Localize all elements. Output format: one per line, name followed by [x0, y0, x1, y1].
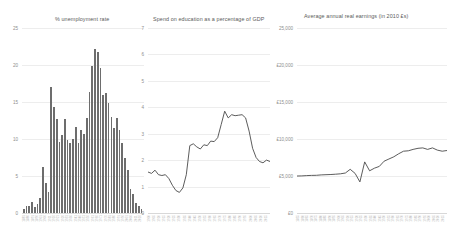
y-axis-tick-label: 15 — [2, 100, 18, 105]
bar — [48, 192, 50, 213]
bar — [119, 130, 121, 213]
x-axis-tick-label: 2015 — [442, 215, 447, 222]
x-axis-labels: 1855186018651870187518801885189018951900… — [297, 215, 447, 222]
bar — [26, 206, 28, 213]
bar — [69, 143, 71, 213]
line-path — [148, 111, 270, 192]
bar — [102, 95, 104, 213]
line-path — [297, 148, 447, 182]
bar — [83, 134, 85, 213]
bar — [100, 68, 102, 213]
bar — [111, 117, 113, 213]
bar — [113, 128, 115, 213]
bar — [80, 130, 82, 213]
y-axis-tick-label: 20 — [2, 63, 18, 68]
x-axis-labels: 1900190519101915192019251930193519401945… — [148, 215, 270, 222]
bar — [61, 135, 63, 213]
bar — [42, 167, 44, 213]
bar — [50, 87, 52, 213]
chart-title-unemployment: % unemployment rate — [55, 16, 109, 22]
bar — [116, 118, 118, 213]
bar — [108, 103, 110, 213]
three-panel-chart-figure: % unemployment rate 25201510501881188618… — [0, 0, 454, 251]
bar — [91, 66, 93, 213]
chart-panel-earnings: Average annual real earnings (in 2010 £s… — [255, 0, 454, 251]
bar — [39, 198, 41, 213]
y-axis-tick-label: 10 — [2, 137, 18, 142]
bar — [37, 204, 39, 213]
bar — [53, 107, 55, 213]
bar — [75, 127, 77, 213]
bar — [86, 118, 88, 213]
bar — [94, 49, 96, 213]
bar — [56, 119, 58, 213]
y-axis-tick-label: 0 — [2, 211, 18, 216]
bar — [97, 52, 99, 213]
bar — [64, 119, 66, 213]
bar — [59, 142, 61, 213]
bar — [45, 183, 47, 213]
bar — [72, 139, 74, 213]
y-axis-tick-label: 25 — [2, 26, 18, 31]
bar — [105, 93, 107, 213]
bar — [78, 143, 80, 213]
bar — [89, 92, 91, 213]
bar — [31, 202, 33, 213]
y-axis-tick-label: 5 — [2, 174, 18, 179]
bar — [67, 140, 69, 213]
bar — [28, 206, 30, 213]
